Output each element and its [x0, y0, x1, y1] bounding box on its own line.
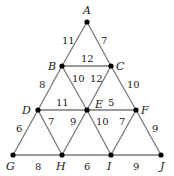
- node-label-e: E: [94, 98, 103, 111]
- edge-weight-b-d: 8: [39, 79, 45, 90]
- edge-weight-e-f: 5: [108, 97, 114, 108]
- node-label-b: B: [47, 60, 56, 73]
- graph-canvas: 1171210128101157910769869 ABCDEFGHIJ: [0, 0, 174, 176]
- nodes-layer: [10, 19, 163, 157]
- node-g-dot-icon: [10, 152, 15, 157]
- node-label-a: A: [82, 4, 91, 17]
- node-c-dot-icon: [108, 63, 113, 68]
- edge-weight-a-b: 11: [62, 35, 75, 46]
- node-label-g: G: [6, 160, 15, 173]
- node-i-dot-icon: [108, 152, 113, 157]
- edge-weight-a-c: 7: [101, 35, 107, 46]
- edge-weight-f-j: 9: [152, 123, 158, 134]
- node-f-dot-icon: [133, 107, 138, 112]
- edge-weights-layer: 1171210128101157910769869: [16, 35, 158, 172]
- node-label-i: I: [106, 160, 112, 173]
- node-label-d: D: [21, 104, 31, 117]
- node-label-h: H: [55, 160, 66, 173]
- weighted-graph-diagram: 1171210128101157910769869 ABCDEFGHIJ: [0, 0, 174, 176]
- node-h-dot-icon: [59, 152, 64, 157]
- node-a-dot-icon: [84, 19, 89, 24]
- node-labels-layer: ABCDEFGHIJ: [6, 4, 165, 173]
- edge-weight-c-f: 10: [127, 79, 140, 90]
- node-label-j: J: [158, 160, 165, 173]
- edge-weight-b-e: 10: [72, 73, 85, 84]
- node-d-dot-icon: [35, 107, 40, 112]
- edge-weight-b-c: 12: [81, 53, 94, 64]
- edge-weight-d-e: 11: [56, 97, 69, 108]
- node-label-f: F: [140, 104, 149, 117]
- edge-weight-i-j: 9: [133, 161, 139, 172]
- edge-weight-h-i: 6: [84, 161, 90, 172]
- node-b-dot-icon: [59, 63, 64, 68]
- edge-weight-e-i: 10: [96, 116, 109, 127]
- edge-weight-e-h: 9: [70, 116, 76, 127]
- node-j-dot-icon: [158, 152, 163, 157]
- edge-weight-g-h: 8: [35, 161, 41, 172]
- edge-weight-f-i: 7: [119, 116, 125, 127]
- edge-weight-c-e: 12: [90, 73, 103, 84]
- edge-weight-d-g: 6: [16, 123, 22, 134]
- edge-weight-d-h: 7: [48, 116, 54, 127]
- node-e-dot-icon: [84, 107, 89, 112]
- node-label-c: C: [116, 60, 125, 73]
